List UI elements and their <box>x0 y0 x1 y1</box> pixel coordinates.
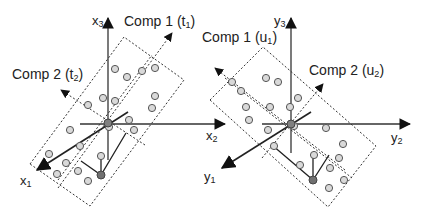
left-comp1-label: Comp 1 (t1) <box>124 14 195 30</box>
left-comp2-label: Comp 2 (t2) <box>12 67 83 83</box>
y3-axis-label: y3 <box>274 14 286 29</box>
left-x-space <box>30 18 225 206</box>
y1-axis <box>222 112 311 168</box>
right-origin-point <box>287 120 295 128</box>
x1-axis-label: x1 <box>20 174 32 189</box>
right-projected-point <box>309 176 317 184</box>
right-comp1-label: Comp 1 (u1) <box>202 30 277 46</box>
left-projected-point <box>97 171 105 179</box>
y2-axis-label: y2 <box>391 131 403 146</box>
y1-axis-label: y1 <box>204 170 216 185</box>
x2-axis-label: x2 <box>206 129 218 144</box>
left-origin-point <box>104 119 112 127</box>
x3-axis-label: x3 <box>92 14 104 29</box>
right-comp2-label: Comp 2 (u2) <box>309 63 384 79</box>
right-y-space <box>210 18 410 207</box>
